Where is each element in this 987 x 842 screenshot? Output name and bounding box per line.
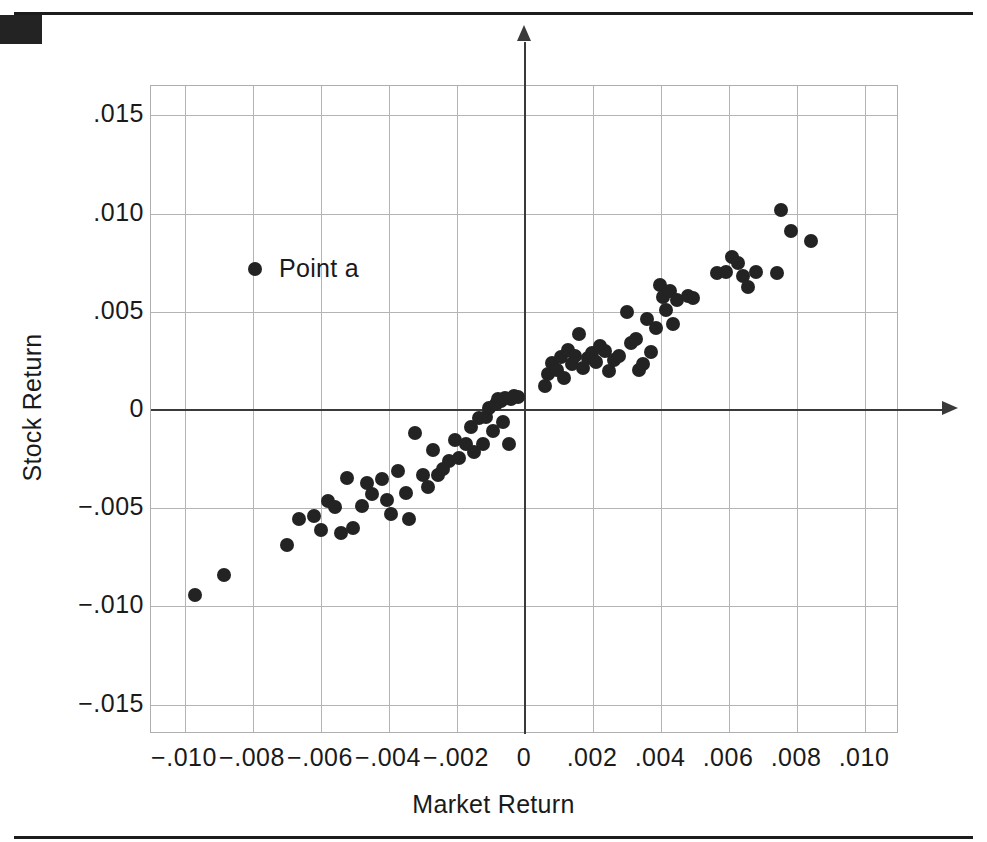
data-point	[365, 487, 379, 501]
y-tick-label: −.015	[6, 691, 144, 716]
data-point	[188, 588, 202, 602]
x-axis-tick-labels: −.010−.008−.006−.004−.0020.002.004.006.0…	[0, 745, 987, 785]
data-point	[375, 472, 389, 486]
figure-container: .015.010.0050−.005−.010−.015 −.010−.008−…	[0, 0, 987, 842]
data-point	[620, 305, 634, 319]
x-tick-label: .010	[794, 745, 934, 770]
data-point	[391, 464, 405, 478]
legend-marker-icon	[248, 262, 262, 276]
data-point	[380, 493, 394, 507]
data-point	[741, 280, 755, 294]
zero-axis-vertical	[524, 42, 526, 734]
data-point	[502, 437, 516, 451]
data-point	[557, 371, 571, 385]
data-point	[731, 256, 745, 270]
axis-arrow-up-icon	[517, 25, 531, 41]
data-point	[402, 512, 416, 526]
legend: Point a	[248, 254, 359, 283]
data-point	[346, 521, 360, 535]
data-point	[292, 512, 306, 526]
legend-label: Point a	[279, 254, 359, 283]
data-point	[686, 291, 700, 305]
data-point	[538, 379, 552, 393]
data-point	[452, 451, 466, 465]
data-point	[511, 390, 525, 404]
bottom-horizontal-rule	[14, 836, 973, 839]
data-point	[666, 317, 680, 331]
data-point	[636, 357, 650, 371]
axis-arrow-right-icon	[942, 401, 958, 415]
data-point	[612, 349, 626, 363]
x-axis-title: Market Return	[0, 790, 987, 819]
data-point	[355, 499, 369, 513]
data-point	[659, 303, 673, 317]
data-point	[749, 265, 763, 279]
data-point	[644, 345, 658, 359]
y-tick-label: .015	[6, 101, 144, 126]
plot-area	[150, 85, 898, 733]
data-point	[784, 224, 798, 238]
data-point	[629, 332, 643, 346]
data-point	[770, 266, 784, 280]
top-horizontal-rule	[14, 12, 973, 15]
data-point	[340, 471, 354, 485]
data-point	[496, 415, 510, 429]
data-point	[572, 327, 586, 341]
data-point	[426, 443, 440, 457]
data-point	[774, 203, 788, 217]
data-point	[649, 321, 663, 335]
data-point	[217, 568, 231, 582]
data-point	[408, 426, 422, 440]
data-point	[384, 507, 398, 521]
data-point	[421, 480, 435, 494]
data-point	[280, 538, 294, 552]
data-point	[307, 509, 321, 523]
data-point	[476, 437, 490, 451]
data-point	[399, 486, 413, 500]
data-point	[804, 234, 818, 248]
y-tick-label: .010	[6, 200, 144, 225]
data-point	[314, 523, 328, 537]
y-axis-title: Stock Return	[18, 308, 47, 508]
zero-axis-horizontal	[151, 409, 943, 411]
data-point	[328, 500, 342, 514]
y-tick-label: −.010	[6, 592, 144, 617]
